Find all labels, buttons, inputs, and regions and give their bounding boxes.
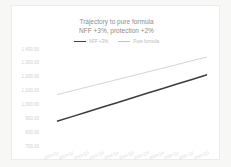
chart-page: Trajectory to pure formula NFF +3%, prot…: [0, 0, 231, 167]
series-line-1: [57, 57, 207, 95]
plot-area: [0, 0, 231, 167]
series-line-0: [57, 75, 207, 122]
